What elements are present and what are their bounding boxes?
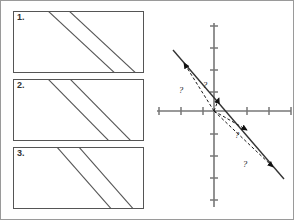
strata-lines-1 <box>14 12 144 73</box>
strata-box-1 <box>13 11 144 73</box>
strata-panel: 1. 2. 3. <box>1 1 153 219</box>
vector-v1 <box>184 63 214 111</box>
question-label-4: ? <box>243 159 248 169</box>
strata-lines-3 <box>14 148 144 209</box>
strata-box-2-label: 2. <box>17 80 25 90</box>
strata-box-2-wrapper: 2. <box>13 79 144 141</box>
vector-diagram-svg: ???? <box>151 1 294 220</box>
strata-box-1-label: 1. <box>17 12 25 22</box>
target-line <box>173 50 284 179</box>
strata-line-3-2 <box>78 147 136 209</box>
vector-diagram-panel: ???? <box>151 1 294 219</box>
strata-box-3-wrapper: 3. <box>13 147 144 209</box>
strata-line-3-1 <box>56 147 114 209</box>
strata-lines-2 <box>14 80 144 141</box>
target-line-group <box>173 50 284 179</box>
strata-box-1-wrapper: 1. <box>13 11 144 73</box>
question-label-2: ? <box>203 80 208 90</box>
strata-line-1-2 <box>68 11 139 73</box>
figure-root: 1. 2. 3. ???? <box>0 0 294 220</box>
strata-box-3 <box>13 147 144 209</box>
strata-line-1-1 <box>47 11 118 73</box>
question-label-1: ? <box>179 85 184 95</box>
axes-group <box>157 23 291 207</box>
strata-box-3-label: 3. <box>17 148 25 158</box>
strata-box-2 <box>13 79 144 141</box>
question-label-3: ? <box>235 130 240 140</box>
